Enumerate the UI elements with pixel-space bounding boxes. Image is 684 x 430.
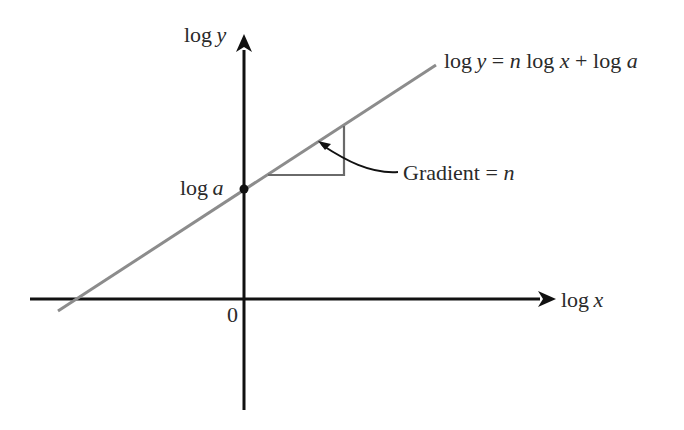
origin-label: 0 [227, 304, 238, 326]
line-equation-label: log y = n log x + log a [444, 50, 638, 72]
y-axis-arrow-icon [236, 34, 252, 52]
y-axis-label-log: log [184, 22, 212, 47]
x-axis-label-log: log [561, 287, 589, 312]
gradient-label-var: n [503, 160, 514, 185]
eq-var: y [477, 48, 487, 73]
eq-var: n [510, 48, 521, 73]
gradient-label-text: Gradient = [403, 160, 503, 185]
y-axis-label: log y [184, 24, 226, 46]
eq-var: x [560, 48, 570, 73]
x-axis-label: log x [561, 289, 603, 311]
y-axis-label-var: y [217, 22, 227, 47]
intercept-label-log: log [180, 175, 208, 200]
gradient-pointer-arrow [322, 145, 398, 172]
x-axis-label-var: x [594, 287, 604, 312]
eq-var: a [627, 48, 638, 73]
x-axis-arrow-icon [538, 291, 556, 307]
intercept-label: log a [180, 177, 224, 199]
intercept-label-var: a [213, 175, 224, 200]
eq-part: log [521, 48, 560, 73]
intercept-dot [240, 185, 249, 194]
eq-part: log [444, 48, 472, 73]
gradient-label: Gradient = n [403, 162, 514, 184]
eq-part: = [486, 48, 509, 73]
eq-part: + log [570, 48, 627, 73]
